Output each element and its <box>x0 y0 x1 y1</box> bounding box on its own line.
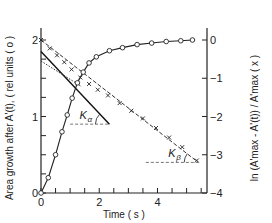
annotation-k: K <box>168 147 176 159</box>
area-growth-point <box>65 113 70 118</box>
area-growth-point <box>46 175 51 180</box>
y-right-tick-label: −4 <box>210 187 223 199</box>
area-growth-point <box>120 45 125 50</box>
ln-point <box>62 60 66 64</box>
x-tick-label: 0 <box>38 196 44 208</box>
area-growth-point <box>87 61 92 66</box>
y-right-tick-label: −1 <box>210 72 223 84</box>
area-growth-point <box>75 81 80 86</box>
series <box>39 38 199 196</box>
y-right-tick-label: 0 <box>210 34 216 46</box>
ln-point <box>55 53 59 57</box>
area-growth-point <box>178 38 183 43</box>
x-axis-label: Time ( s ) <box>103 209 145 220</box>
y-left-axis-label: Area growth after A'(t), ( rel units ( o… <box>4 36 15 200</box>
x-tick-label: 4 <box>154 196 160 208</box>
annotation-k: K <box>79 109 87 121</box>
area-growth-point <box>149 41 154 46</box>
angle-arc <box>184 154 187 163</box>
angle-arc <box>95 114 99 124</box>
y-right-axis-label: ln (A'max - A'(t)) / A'max ( x ) <box>249 55 260 181</box>
x-tick-label: 2 <box>96 196 102 208</box>
area-growth-point <box>107 48 112 53</box>
y-left-tick-label: 2 <box>32 34 38 46</box>
ln-point <box>70 67 74 71</box>
area-growth-point <box>81 70 86 75</box>
area-growth-point <box>94 55 99 60</box>
y-left-tick-label: 0 <box>32 187 38 199</box>
y-right-tick-label: −2 <box>210 111 223 123</box>
fit-line <box>41 40 198 162</box>
area-growth-point <box>53 152 58 157</box>
annotation-subscript: β <box>175 153 181 162</box>
fit-lines: KαKβ <box>41 40 198 162</box>
ln-point <box>78 75 82 79</box>
area-growth-point <box>190 38 195 43</box>
area-growth-point <box>70 96 75 101</box>
chart: 0240120−1−2−3−4 KαKβ Time ( s ) Area gro… <box>0 0 272 223</box>
area-growth-point <box>39 191 44 196</box>
ln-point <box>106 93 110 97</box>
ln-point <box>180 145 184 149</box>
area-growth-point <box>135 42 140 47</box>
ln-point <box>87 82 91 86</box>
y-right-tick-label: −3 <box>210 149 223 161</box>
area-growth-point <box>60 130 65 135</box>
ln-point <box>167 136 171 140</box>
ln-point <box>96 88 100 92</box>
annotation-subscript: α <box>87 115 92 124</box>
area-growth-point <box>164 39 169 44</box>
y-left-tick-label: 1 <box>32 111 38 123</box>
